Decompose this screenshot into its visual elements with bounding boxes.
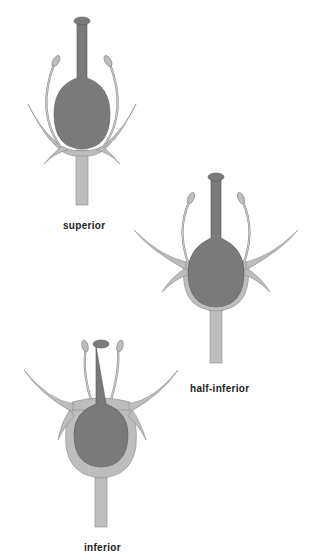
label-inferior: inferior	[84, 542, 121, 553]
diagram-inferior	[24, 339, 178, 527]
ovary-position-diagrams	[0, 0, 318, 555]
diagram-half-inferior	[134, 173, 298, 363]
diagram-superior	[28, 17, 136, 205]
label-half-inferior: half-inferior	[190, 383, 249, 394]
label-superior: superior	[63, 220, 105, 231]
